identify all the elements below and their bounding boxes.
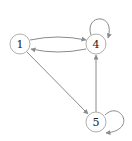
node-1: 1 [10, 34, 30, 54]
node-4: 4 [86, 34, 106, 54]
node-1-label: 1 [17, 38, 24, 51]
node-5: 5 [86, 112, 106, 132]
node-5-label: 5 [93, 116, 100, 129]
node-4-label: 4 [93, 38, 100, 51]
edge-1-to-4 [30, 37, 86, 40]
graph-diagram: 1 4 5 [0, 0, 132, 141]
edge-1-to-5 [27, 52, 88, 114]
edge-5-self-loop [105, 111, 124, 133]
edge-4-to-1 [31, 49, 86, 52]
